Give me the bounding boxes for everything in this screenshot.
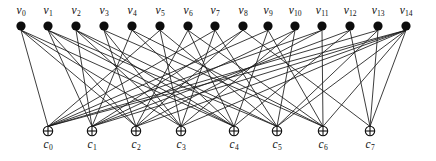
- variable-node-label-v13: v13: [372, 5, 385, 17]
- variable-node-v8: [238, 21, 247, 30]
- check-node-label-c2: c2: [132, 139, 141, 151]
- check-node-c4: [229, 126, 238, 135]
- check-node-c1: [87, 126, 96, 135]
- variable-node-v4: [127, 21, 136, 30]
- variable-node-v2: [71, 21, 80, 30]
- edges-group: [21, 30, 406, 126]
- graph-edge: [188, 30, 323, 126]
- variable-node-v13: [373, 21, 382, 30]
- variable-node-v10: [290, 21, 299, 30]
- graph-edge: [92, 30, 406, 126]
- check-node-c3: [176, 126, 185, 135]
- graph-canvas: [0, 0, 436, 161]
- variable-node-label-v2: v2: [72, 5, 81, 17]
- variable-node-v12: [345, 21, 354, 30]
- variable-node-label-v7: v7: [211, 5, 220, 17]
- variable-node-label-v0: v0: [17, 5, 26, 17]
- variable-node-v5: [155, 21, 164, 30]
- graph-edge: [104, 30, 181, 126]
- check-node-label-c6: c6: [319, 139, 328, 151]
- graph-edge: [48, 30, 322, 126]
- variable-node-label-v14: v14: [400, 5, 413, 17]
- variable-node-label-v10: v10: [289, 5, 302, 17]
- graph-edge: [322, 30, 323, 126]
- check-node-c5: [272, 126, 281, 135]
- variable-node-v6: [183, 21, 192, 30]
- graph-edge: [21, 30, 234, 126]
- variable-node-label-v4: v4: [128, 5, 137, 17]
- graph-edge: [48, 30, 92, 126]
- variable-node-v11: [317, 21, 326, 30]
- variable-node-label-v6: v6: [184, 5, 193, 17]
- check-nodes-group: [43, 126, 374, 135]
- tanner-graph-figure: v0v1v2v3v4v5v6v7v8v9v10v11v12v13v14c0c1c…: [0, 0, 436, 161]
- check-node-label-c1: c1: [88, 139, 97, 151]
- check-node-c6: [318, 126, 327, 135]
- variable-node-label-v8: v8: [239, 5, 248, 17]
- graph-edge: [48, 30, 378, 126]
- graph-edge: [268, 30, 323, 126]
- variable-nodes-group: [16, 21, 410, 30]
- variable-node-v14: [401, 21, 410, 30]
- check-node-label-c5: c5: [273, 139, 282, 151]
- graph-edge: [370, 30, 406, 126]
- variable-node-v1: [43, 21, 52, 30]
- variable-node-label-v12: v12: [344, 5, 357, 17]
- graph-edge: [277, 30, 406, 126]
- variable-node-label-v9: v9: [264, 5, 273, 17]
- variable-node-v9: [263, 21, 272, 30]
- check-node-c2: [131, 126, 140, 135]
- graph-edge: [48, 30, 234, 126]
- variable-node-v3: [99, 21, 108, 30]
- variable-node-label-v1: v1: [44, 5, 53, 17]
- graph-edge: [48, 30, 160, 126]
- check-node-label-c7: c7: [366, 139, 375, 151]
- variable-node-label-v3: v3: [100, 5, 109, 17]
- graph-edge: [21, 30, 48, 126]
- graph-edge: [92, 30, 295, 126]
- graph-edge: [48, 30, 268, 126]
- check-node-label-c0: c0: [44, 139, 53, 151]
- variable-node-v0: [16, 21, 25, 30]
- variable-node-label-v11: v11: [316, 5, 328, 17]
- graph-edge: [48, 30, 277, 126]
- variable-node-v7: [210, 21, 219, 30]
- variable-node-label-v5: v5: [156, 5, 165, 17]
- check-node-label-c3: c3: [177, 139, 186, 151]
- check-node-label-c4: c4: [230, 139, 239, 151]
- check-node-c7: [365, 126, 374, 135]
- check-node-c0: [43, 126, 52, 135]
